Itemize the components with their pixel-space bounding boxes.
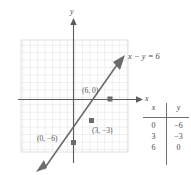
graph-figure: x y x − y = 6 (6, 0) (3, −3) (0, −6) x 0… (0, 0, 191, 175)
point-label-6-0: (6, 0) (82, 87, 98, 95)
table-cell-y-0: −6 (168, 121, 189, 132)
point-marker-6-0 (108, 97, 113, 102)
point-marker-0-minus6 (71, 140, 76, 145)
table-cell-x-2: 6 (143, 143, 164, 154)
table-column-x: x 0 3 6 (143, 103, 164, 154)
table-cell-x-0: 0 (143, 121, 164, 132)
point-label-0-minus6: (0, −6) (37, 135, 57, 143)
table-cell-y-1: −3 (168, 132, 189, 143)
y-axis-label: y (70, 8, 74, 16)
equation-label: x − y = 6 (128, 52, 160, 61)
table-column-y: y −6 −3 0 (168, 103, 189, 154)
x-axis-label: x (145, 95, 149, 103)
value-table: x 0 3 6 y −6 −3 0 (143, 103, 189, 167)
table-header-y: y (168, 103, 189, 114)
table-cell-x-1: 3 (143, 132, 164, 143)
table-cell-y-2: 0 (168, 143, 189, 154)
table-header-x: x (143, 103, 164, 114)
point-marker-3-minus3 (89, 118, 94, 123)
point-label-3-minus3: (3, −3) (92, 127, 112, 135)
table-vertical-rule (166, 103, 167, 165)
